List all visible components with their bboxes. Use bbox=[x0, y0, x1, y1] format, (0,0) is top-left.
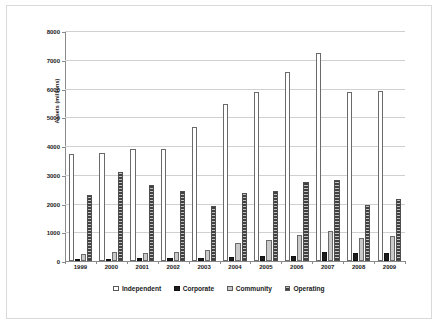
bar-corporate-2006[interactable] bbox=[291, 256, 296, 261]
bar-group bbox=[374, 31, 405, 261]
bar-operating-2001[interactable] bbox=[149, 185, 154, 261]
legend-swatch-corporate-icon bbox=[174, 286, 180, 292]
bar-community-2003[interactable] bbox=[205, 250, 210, 261]
legend-label-operating: Operating bbox=[293, 285, 324, 292]
bar-group bbox=[189, 31, 220, 261]
bar-group bbox=[312, 31, 343, 261]
bar-independent-2006[interactable] bbox=[285, 72, 290, 261]
bar-independent-2008[interactable] bbox=[347, 92, 352, 261]
x-axis-tick-mark bbox=[405, 261, 406, 264]
x-axis-tick-label-2006: 2006 bbox=[281, 264, 312, 270]
bar-operating-2004[interactable] bbox=[242, 193, 247, 261]
x-axis-tick-label-2009: 2009 bbox=[374, 264, 405, 270]
y-axis-tick-label: 6000 bbox=[47, 87, 60, 93]
bar-operating-2003[interactable] bbox=[211, 206, 216, 261]
chart-container: Assets (millions) 8000700060005000400030… bbox=[6, 5, 432, 319]
x-axis-tick-label-2002: 2002 bbox=[158, 264, 189, 270]
gridline: 0 bbox=[65, 261, 405, 262]
y-axis-tick-label: 4000 bbox=[47, 144, 60, 150]
y-axis-tick-label: 5000 bbox=[47, 115, 60, 121]
legend-swatch-independent-icon bbox=[113, 286, 119, 292]
bar-corporate-2003[interactable] bbox=[198, 258, 203, 261]
bar-independent-2007[interactable] bbox=[316, 53, 321, 261]
y-axis-tick-label: 3000 bbox=[47, 173, 60, 179]
legend-swatch-operating-icon bbox=[285, 286, 291, 292]
bar-independent-1999[interactable] bbox=[69, 154, 74, 261]
legend-label-corporate: Corporate bbox=[183, 285, 215, 292]
x-axis-tick-label-2001: 2001 bbox=[127, 264, 158, 270]
bar-independent-2009[interactable] bbox=[378, 91, 383, 261]
bar-operating-2006[interactable] bbox=[303, 182, 308, 261]
bar-community-2001[interactable] bbox=[143, 253, 148, 261]
bar-corporate-2005[interactable] bbox=[260, 256, 265, 261]
bar-group bbox=[65, 31, 96, 261]
bar-operating-2007[interactable] bbox=[334, 180, 339, 261]
bar-community-2008[interactable] bbox=[359, 238, 364, 261]
x-axis-tick-label-2008: 2008 bbox=[343, 264, 374, 270]
legend-label-community: Community bbox=[236, 285, 272, 292]
x-axis-tick-label-2005: 2005 bbox=[250, 264, 281, 270]
bar-group bbox=[281, 31, 312, 261]
bar-community-2007[interactable] bbox=[328, 231, 333, 261]
y-axis-tick-label: 0 bbox=[57, 259, 60, 265]
bar-community-1999[interactable] bbox=[81, 254, 86, 261]
bar-community-2004[interactable] bbox=[235, 243, 240, 261]
chart-legend: IndependentCorporateCommunityOperating bbox=[7, 285, 431, 292]
bar-operating-1999[interactable] bbox=[87, 195, 92, 261]
legend-item-independent[interactable]: Independent bbox=[113, 285, 161, 292]
y-axis-tick-label: 8000 bbox=[47, 29, 60, 35]
bar-independent-2003[interactable] bbox=[192, 127, 197, 261]
x-axis-tick-label-2007: 2007 bbox=[312, 264, 343, 270]
bar-corporate-1999[interactable] bbox=[75, 259, 80, 261]
bar-group bbox=[343, 31, 374, 261]
bar-operating-2009[interactable] bbox=[396, 199, 401, 261]
bar-group bbox=[158, 31, 189, 261]
y-axis-tick-label: 1000 bbox=[47, 230, 60, 236]
bar-independent-2004[interactable] bbox=[223, 104, 228, 261]
bar-operating-2002[interactable] bbox=[180, 191, 185, 261]
bar-operating-2000[interactable] bbox=[118, 172, 123, 261]
bar-corporate-2008[interactable] bbox=[353, 253, 358, 261]
legend-swatch-community-icon bbox=[227, 286, 233, 292]
bar-independent-2000[interactable] bbox=[99, 153, 104, 261]
bar-independent-2005[interactable] bbox=[254, 92, 259, 261]
y-axis-tick-label: 2000 bbox=[47, 202, 60, 208]
legend-item-operating[interactable]: Operating bbox=[285, 285, 325, 292]
bar-group bbox=[127, 31, 158, 261]
bar-group bbox=[220, 31, 251, 261]
legend-label-independent: Independent bbox=[122, 285, 161, 292]
bar-independent-2001[interactable] bbox=[130, 149, 135, 261]
bar-group bbox=[250, 31, 281, 261]
x-axis-tick-label-1999: 1999 bbox=[65, 264, 96, 270]
legend-item-community[interactable]: Community bbox=[227, 285, 272, 292]
legend-item-corporate[interactable]: Corporate bbox=[174, 285, 214, 292]
bar-group bbox=[96, 31, 127, 261]
bar-corporate-2000[interactable] bbox=[106, 259, 111, 261]
bar-corporate-2007[interactable] bbox=[322, 252, 327, 261]
bar-corporate-2001[interactable] bbox=[137, 258, 142, 261]
bar-corporate-2002[interactable] bbox=[167, 258, 172, 261]
bar-community-2002[interactable] bbox=[174, 252, 179, 261]
bar-operating-2008[interactable] bbox=[365, 205, 370, 261]
bar-corporate-2004[interactable] bbox=[229, 257, 234, 261]
bar-corporate-2009[interactable] bbox=[384, 253, 389, 261]
y-axis-tick-label: 7000 bbox=[47, 58, 60, 64]
bar-community-2006[interactable] bbox=[297, 235, 302, 261]
bar-groups bbox=[65, 31, 405, 261]
bar-operating-2005[interactable] bbox=[273, 191, 278, 261]
bar-community-2000[interactable] bbox=[112, 252, 117, 261]
bar-independent-2002[interactable] bbox=[161, 149, 166, 261]
x-axis-tick-label-2004: 2004 bbox=[220, 264, 251, 270]
bar-community-2005[interactable] bbox=[266, 240, 271, 261]
x-axis-tick-label-2003: 2003 bbox=[189, 264, 220, 270]
plot-area: 800070006000500040003000200010000 bbox=[65, 31, 405, 261]
x-axis-tick-labels: 1999200020012002200320042005200620072008… bbox=[65, 264, 405, 270]
bar-community-2009[interactable] bbox=[390, 236, 395, 261]
x-axis-tick-label-2000: 2000 bbox=[96, 264, 127, 270]
